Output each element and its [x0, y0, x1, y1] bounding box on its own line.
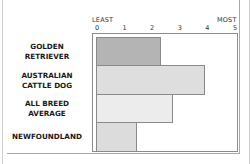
category-label-line: AVERAGE: [4, 109, 90, 119]
category-label: ALL BREEDAVERAGE: [4, 99, 90, 119]
bar: [96, 94, 173, 123]
category-label-line: AUSTRALIAN: [4, 71, 90, 81]
x-tick-label: 2: [150, 24, 154, 32]
category-label-line: ALL BREED: [4, 99, 90, 109]
category-label-line: GOLDEN: [4, 42, 90, 52]
axis-max-label: MOST: [217, 16, 237, 24]
bar: [96, 65, 205, 94]
bar: [96, 122, 137, 151]
x-tick-label: 4: [205, 24, 209, 32]
page-edge-right: [249, 0, 250, 164]
category-label-line: CATTLE DOG: [4, 81, 90, 91]
page-edge-left: [2, 0, 3, 164]
x-tick-label: 3: [178, 24, 182, 32]
x-tick-label: 1: [123, 24, 127, 32]
x-tick-label: 0: [95, 24, 99, 32]
category-label-line: NEWFOUNDLAND: [4, 132, 90, 142]
axis-min-label: LEAST: [92, 16, 113, 24]
category-label: NEWFOUNDLAND: [4, 132, 90, 142]
x-tick-label: 5: [233, 24, 237, 32]
bar: [96, 37, 161, 66]
category-label-line: RETRIEVER: [4, 52, 90, 62]
category-label: GOLDENRETRIEVER: [4, 42, 90, 62]
category-label: AUSTRALIANCATTLE DOG: [4, 71, 90, 91]
